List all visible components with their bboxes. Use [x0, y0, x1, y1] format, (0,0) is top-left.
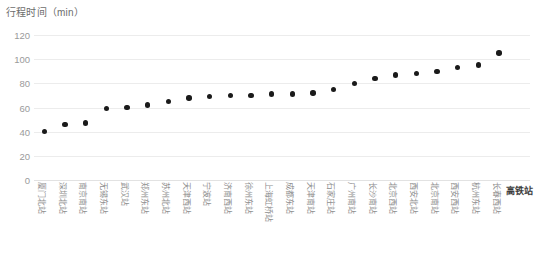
x-axis-tick-label: 北京南站 [430, 182, 441, 248]
data-point [104, 106, 110, 112]
x-axis-tick-label: 天津西站 [182, 182, 193, 248]
data-point [248, 93, 254, 99]
y-axis-tick-label: 0 [0, 175, 30, 186]
data-point [414, 71, 420, 77]
y-axis-tick-label: 80 [0, 78, 30, 89]
x-axis-tick-label: 广州南站 [347, 182, 358, 248]
y-axis-tick-label: 40 [0, 126, 30, 137]
x-axis-tick-label: 长春西站 [492, 182, 503, 248]
data-point [269, 91, 275, 97]
y-axis-tick-label: 120 [0, 30, 30, 41]
x-axis-tick-label: 济南西站 [223, 182, 234, 248]
x-axis-tick-label: 上海虹桥站 [264, 182, 275, 248]
data-point [476, 62, 482, 68]
data-point [186, 95, 192, 101]
gridline [34, 156, 530, 157]
data-point [331, 87, 337, 93]
x-axis-tick-label: 天津南站 [306, 182, 317, 248]
data-point [372, 76, 378, 82]
gridline [34, 35, 530, 36]
x-axis-tick-label: 郑州东站 [140, 182, 151, 248]
x-axis-tick-label: 西安北站 [409, 182, 420, 248]
data-point [434, 69, 440, 75]
data-point [290, 91, 296, 97]
gridline [34, 59, 530, 60]
scatter-chart: 行程时间（min） 020406080100120 厦门北站深圳北站南京南站无锡… [0, 0, 538, 253]
x-axis-tick-label: 长沙南站 [368, 182, 379, 248]
x-axis-tick-label: 武汉站 [120, 182, 131, 248]
y-axis-tick-label: 100 [0, 54, 30, 65]
plot-area [34, 35, 530, 180]
x-axis-tick-label: 南京南站 [78, 182, 89, 248]
data-point [496, 50, 502, 56]
chart-title: 行程时间（min） [6, 4, 84, 19]
x-axis-tick-label: 杭州东站 [471, 182, 482, 248]
gridline [34, 180, 530, 181]
x-axis-tick-label: 北京西站 [388, 182, 399, 248]
data-point [124, 105, 130, 111]
x-axis-tick-label: 宁波站 [202, 182, 213, 248]
x-axis-tick-label: 徐州东站 [244, 182, 255, 248]
y-axis-tick-label: 60 [0, 102, 30, 113]
x-axis-tick-label: 厦门北站 [37, 182, 48, 248]
data-point [83, 120, 89, 126]
data-point [393, 72, 399, 78]
data-point [166, 99, 172, 105]
x-axis-tick-label: 无锡东站 [99, 182, 110, 248]
x-axis-tick-label: 西安西站 [450, 182, 461, 248]
data-point [455, 65, 461, 71]
x-axis-labels: 厦门北站深圳北站南京南站无锡东站武汉站郑州东站苏州北站天津西站宁波站济南西站徐州… [34, 182, 530, 253]
y-axis-tick-label: 20 [0, 150, 30, 161]
data-point [352, 81, 358, 87]
gridline [34, 132, 530, 133]
x-axis-tick-label: 苏州北站 [161, 182, 172, 248]
x-axis-tick-label: 成都东站 [285, 182, 296, 248]
data-point [207, 94, 213, 100]
x-axis-title: 高铁站 [506, 184, 533, 197]
data-point [228, 93, 234, 99]
gridline [34, 83, 530, 84]
data-point [42, 129, 48, 135]
data-point [62, 122, 68, 128]
x-axis-tick-label: 深圳北站 [58, 182, 69, 248]
data-point [310, 90, 316, 96]
y-axis-labels: 020406080100120 [0, 35, 30, 180]
x-axis-tick-label: 石家庄站 [326, 182, 337, 248]
